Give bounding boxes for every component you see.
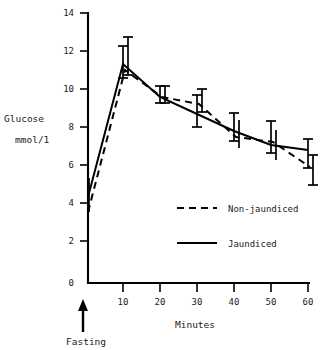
x-tick-label: 60 [303, 297, 314, 307]
legend-label-jaundiced: Jaundiced [228, 239, 277, 249]
fasting-label: Fasting [66, 336, 106, 347]
y-tick-label: 0 [69, 278, 74, 288]
x-tick-label: 50 [266, 297, 277, 307]
x-tick-labels: 10 20 30 40 50 60 [118, 297, 314, 307]
y-tick-labels: 14 12 10 8 6 4 2 0 [63, 8, 74, 288]
error-bars-jaundiced [89, 46, 313, 212]
y-tick-label: 8 [69, 122, 74, 132]
y-tick-label: 12 [63, 46, 74, 56]
fasting-arrow-marker [78, 299, 88, 332]
chart-legend: Non-jaundiced Jaundiced [177, 204, 298, 249]
legend-label-non-jaundiced: Non-jaundiced [228, 204, 298, 214]
x-tick-label: 20 [155, 297, 166, 307]
y-tick-label: 2 [69, 236, 74, 246]
x-tick-label: 30 [192, 297, 203, 307]
y-tick-label: 10 [63, 84, 74, 94]
x-tick-marks [123, 283, 308, 292]
y-axis-title-line2: mmol/1 [15, 134, 50, 145]
x-tick-label: 40 [229, 297, 240, 307]
y-tick-label: 14 [63, 8, 74, 18]
glucose-response-chart: 14 12 10 8 6 4 2 0 10 20 30 40 50 60 [0, 0, 329, 350]
y-tick-marks [80, 13, 88, 241]
error-bars-non-jaundiced [123, 37, 318, 185]
y-tick-label: 6 [69, 160, 74, 170]
y-axis-title-line1: Glucose [4, 113, 44, 124]
x-axis-title: Minutes [175, 319, 215, 330]
y-tick-label: 4 [69, 198, 74, 208]
x-tick-label: 10 [118, 297, 129, 307]
chart-canvas: 14 12 10 8 6 4 2 0 10 20 30 40 50 60 [0, 0, 329, 350]
